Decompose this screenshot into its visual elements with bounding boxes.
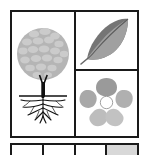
legend-strip bbox=[10, 143, 139, 155]
legend-cell-4[interactable] bbox=[107, 145, 137, 155]
legend-cell-3[interactable] bbox=[76, 145, 108, 155]
figure-root bbox=[0, 0, 147, 155]
leaf-icon bbox=[76, 12, 137, 69]
panel-flower bbox=[76, 71, 137, 136]
panel-tree bbox=[12, 12, 76, 136]
legend-cell-2[interactable] bbox=[44, 145, 76, 155]
panel-leaf bbox=[76, 12, 137, 71]
main-panel-grid bbox=[10, 10, 139, 138]
legend-cell-1[interactable] bbox=[12, 145, 44, 155]
right-column bbox=[76, 12, 137, 136]
five-petal-flower-icon bbox=[76, 71, 137, 136]
tree-with-roots-icon bbox=[12, 12, 74, 136]
